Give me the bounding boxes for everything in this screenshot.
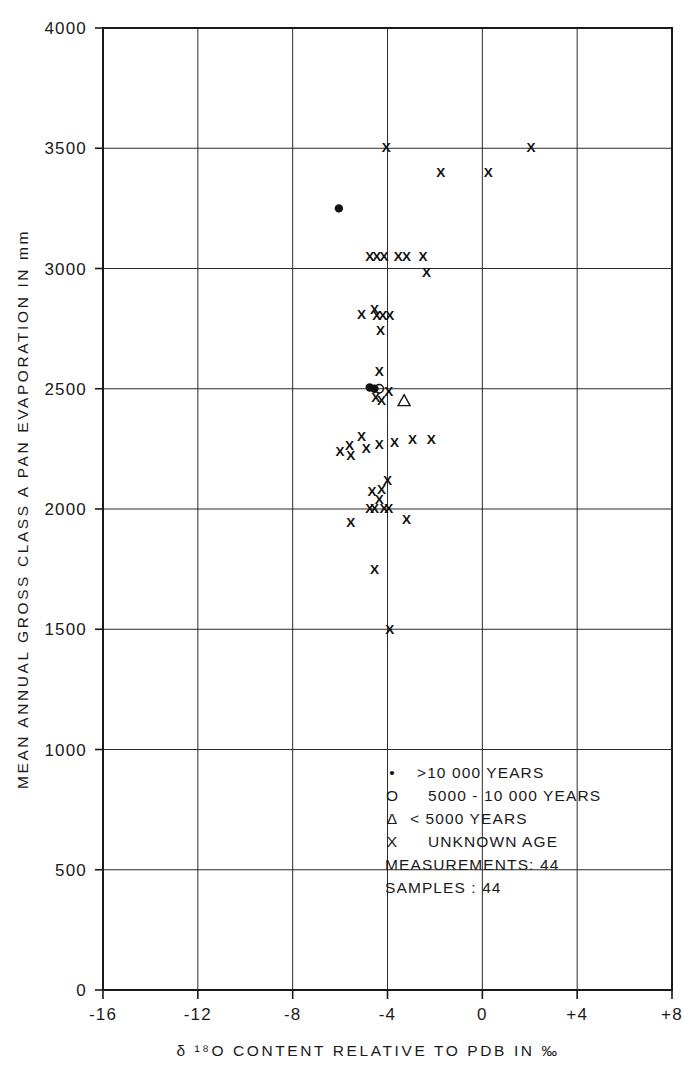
- x-axis-ticks: -16-12-8-40+4+8: [89, 990, 683, 1024]
- legend-samples-count: SAMPLES : 44: [385, 879, 502, 896]
- data-point-x: X: [422, 265, 431, 280]
- data-point-x: X: [419, 249, 428, 264]
- data-point-x: X: [336, 444, 345, 459]
- legend: • >10 000 YEARS O 5000 - 10 000 YEARS Δ …: [385, 764, 601, 896]
- y-tick-label: 1000: [44, 741, 87, 760]
- data-point-filled-circle: [335, 204, 343, 212]
- data-point-x: X: [384, 501, 393, 516]
- legend-label-3: UNKNOWN AGE: [428, 833, 558, 850]
- legend-label-2: < 5000 YEARS: [410, 810, 528, 827]
- data-point-x: X: [390, 435, 399, 450]
- data-point-x: X: [370, 562, 379, 577]
- y-tick-label: 2000: [44, 500, 87, 519]
- y-tick-label: 3000: [44, 260, 87, 279]
- x-axis-title: δ ¹⁸O CONTENT RELATIVE TO PDB IN ‰: [176, 1042, 559, 1059]
- data-point-x: X: [385, 308, 394, 323]
- legend-measurements-count: MEASUREMENTS: 44: [385, 856, 559, 873]
- chart-svg: 05001000150020002500300035004000 -16-12-…: [0, 0, 684, 1072]
- data-point-x: X: [484, 165, 493, 180]
- x-tick-label: +8: [661, 1005, 683, 1024]
- data-point-x: X: [379, 249, 388, 264]
- data-point-x: X: [408, 432, 417, 447]
- legend-symbol-open-circle-icon: O: [386, 787, 398, 804]
- legend-symbol-filled-circle-icon: •: [389, 764, 394, 781]
- data-point-x: X: [375, 437, 384, 452]
- y-tick-label: 4000: [44, 19, 87, 38]
- y-tick-label: 2500: [44, 380, 87, 399]
- legend-label-0: >10 000 YEARS: [417, 764, 544, 781]
- data-point-x: X: [402, 512, 411, 527]
- y-tick-label: 1500: [44, 620, 87, 639]
- y-tick-label: 0: [76, 981, 87, 1000]
- data-point-x: X: [376, 323, 385, 338]
- data-point-x: X: [427, 432, 436, 447]
- data-point-x: X: [362, 441, 371, 456]
- x-tick-label: -4: [379, 1005, 397, 1024]
- x-tick-label: 0: [477, 1005, 488, 1024]
- data-point-x: X: [402, 249, 411, 264]
- y-tick-label: 3500: [44, 139, 87, 158]
- data-point-x: X: [370, 501, 379, 516]
- data-point-x: X: [346, 515, 355, 530]
- data-point-triangle: [398, 395, 410, 406]
- scatter-plot-figure: 05001000150020002500300035004000 -16-12-…: [0, 0, 684, 1072]
- data-point-x: X: [436, 165, 445, 180]
- data-point-x: X: [385, 622, 394, 637]
- legend-symbol-triangle-icon: Δ: [387, 810, 397, 827]
- legend-label-1: 5000 - 10 000 YEARS: [428, 787, 601, 804]
- data-point-x: X: [382, 140, 391, 155]
- x-tick-label: -16: [89, 1005, 117, 1024]
- x-tick-label: -8: [284, 1005, 302, 1024]
- y-axis-title: MEAN ANNUAL GROSS CLASS A PAN EVAPORATIO…: [14, 229, 31, 789]
- x-tick-label: +4: [566, 1005, 588, 1024]
- data-point-x: X: [526, 140, 535, 155]
- data-point-x: X: [375, 364, 384, 379]
- y-axis-ticks: 05001000150020002500300035004000: [44, 19, 103, 1000]
- legend-symbol-x-icon: X: [387, 833, 398, 850]
- data-point-x: X: [357, 307, 366, 322]
- data-point-x: X: [384, 384, 393, 399]
- x-tick-label: -12: [184, 1005, 212, 1024]
- data-point-x: X: [346, 448, 355, 463]
- y-tick-label: 500: [55, 861, 87, 880]
